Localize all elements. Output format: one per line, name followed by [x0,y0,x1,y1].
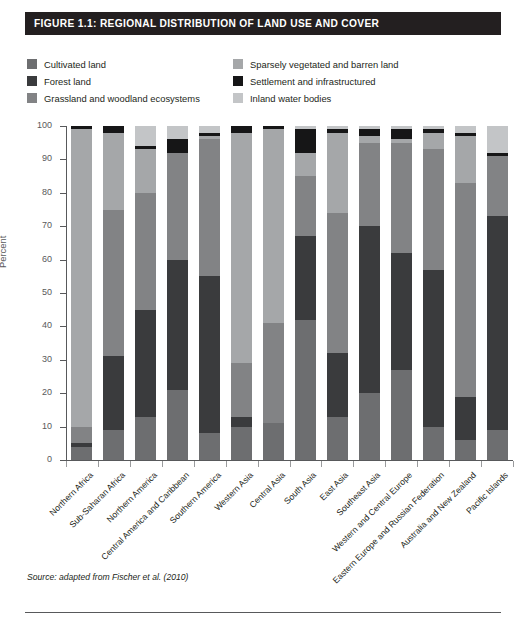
x-axis-tick [513,461,514,467]
bar-column [487,126,508,460]
bar-segment [135,193,156,310]
bar-segment [263,129,284,323]
y-axis-tick [60,393,66,394]
bar-segment [327,126,348,129]
bar-segment [231,126,252,133]
bar-segment [327,129,348,132]
stacked-bar-chart: Percent 0102030405060708090100Northern A… [0,0,526,630]
bar-segment [231,417,252,427]
x-axis-tick [353,461,354,467]
x-axis-tick [449,461,450,467]
bar-segment [455,440,476,460]
x-axis-tick [481,461,482,467]
y-axis-tick [60,226,66,227]
y-axis-tick-label: 90 [12,153,52,163]
footer-divider [25,612,501,613]
bar-column [135,126,156,460]
bar-segment [167,260,188,390]
bar-segment [455,126,476,133]
bar-segment [103,430,124,460]
x-axis-tick [258,461,259,467]
bar-segment [455,136,476,183]
bar-segment [295,129,316,152]
bar-column [167,126,188,460]
source-note: Source: adapted from Fischer et al. (201… [27,572,188,582]
bar-segment [359,393,380,460]
y-axis-tick [60,260,66,261]
bar-segment [423,270,444,427]
bar-segment [199,276,220,433]
bar-segment [455,397,476,440]
bar-segment [359,226,380,393]
bar-segment [71,443,92,446]
bar-segment [423,126,444,129]
plot-area [66,126,513,460]
bar-segment [199,133,220,136]
bar-segment [487,430,508,460]
bar-segment [295,236,316,320]
bar-segment [359,126,380,129]
bar-column [455,126,476,460]
bar-segment [231,427,252,460]
x-axis-tick [98,461,99,467]
bar-segment [199,139,220,276]
y-axis-tick-label: 20 [12,387,52,397]
bar-segment [295,153,316,176]
bar-segment [423,129,444,132]
bar-segment [135,310,156,417]
bar-segment [263,423,284,460]
bar-segment [327,417,348,460]
bar-segment [359,136,380,143]
y-axis-tick [60,193,66,194]
bar-segment [487,153,508,156]
bar-segment [167,126,188,139]
bar-column [327,126,348,460]
x-axis-tick [290,461,291,467]
bar-segment [71,447,92,460]
bar-column [103,126,124,460]
bar-column [199,126,220,460]
bar-segment [135,417,156,460]
bar-column [359,126,380,460]
y-axis-tick [60,126,66,127]
x-axis-tick-label: Northern America [10,470,158,618]
bar-segment [167,139,188,152]
bar-segment [359,143,380,227]
bar-segment [327,133,348,213]
bar-segment [103,133,124,210]
bar-segment [167,390,188,460]
bar-segment [103,356,124,429]
x-axis-tick [321,461,322,467]
bar-segment [487,126,508,153]
bar-segment [199,126,220,133]
y-axis-tick [60,293,66,294]
bar-segment [455,183,476,397]
bar-column [295,126,316,460]
bar-column [71,126,92,460]
y-axis-tick-label: 60 [12,254,52,264]
bar-segment [135,126,156,146]
bar-segment [71,427,92,444]
y-axis-tick-label: 70 [12,220,52,230]
bar-segment [327,213,348,353]
bar-column [391,126,412,460]
bar-segment [231,363,252,416]
y-axis-title: Percent [0,236,8,268]
bar-segment [391,253,412,370]
bar-segment [71,129,92,426]
bar-segment [135,146,156,149]
bar-segment [423,133,444,150]
bar-segment [231,133,252,363]
y-axis-tick-label: 30 [12,354,52,364]
y-axis-tick-label: 40 [12,320,52,330]
bar-segment [103,126,124,133]
x-axis-tick [194,461,195,467]
bar-segment [295,320,316,460]
bar-column [423,126,444,460]
bar-segment [487,156,508,216]
bar-segment [391,129,412,139]
y-axis-tick-label: 80 [12,187,52,197]
y-axis-tick-label: 10 [12,421,52,431]
bar-segment [199,433,220,460]
bar-segment [167,153,188,260]
